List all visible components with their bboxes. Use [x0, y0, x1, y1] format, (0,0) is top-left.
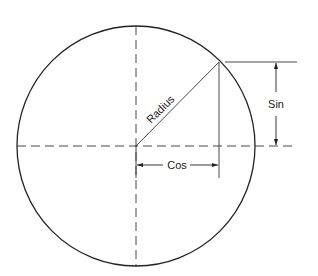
sin-label: Sin: [268, 98, 284, 110]
cos-label: Cos: [167, 159, 187, 171]
trig-circle-diagram: Radius Sin Cos: [0, 0, 318, 276]
radius-line: [136, 62, 219, 146]
radius-label: Radius: [144, 92, 177, 125]
